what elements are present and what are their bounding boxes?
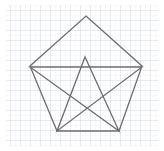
figure-container [0,0,164,151]
geometry-figure-canvas [0,0,164,151]
graph-paper-grid [6,5,158,146]
